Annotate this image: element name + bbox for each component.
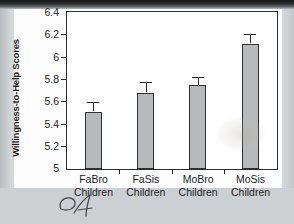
y-axis-title-label: Willingness-to-Help Scores — [10, 23, 21, 173]
y-tick-label: 5.6 — [44, 95, 59, 107]
bar-fasis-children — [137, 93, 154, 169]
x-axis-label-fabro-children: FaBroChildren — [67, 173, 119, 198]
y-tick-mark — [61, 146, 67, 147]
x-axis-label-line: Children — [120, 186, 172, 199]
y-tick-label: 6.4 — [44, 6, 59, 18]
bar-mobro-children — [189, 85, 206, 169]
plot-inner: 55.25.45.65.866.26.4 — [67, 12, 277, 169]
x-axis-label-line: MoBro — [172, 173, 224, 186]
x-axis-label-fasis-children: FaSisChildren — [120, 173, 172, 198]
y-tick-label: 6.2 — [44, 28, 59, 40]
error-bar-stem — [93, 102, 94, 111]
figure-container: Willingness-to-Help Scores 55.25.45.65.8… — [14, 9, 282, 188]
y-tick-mark — [61, 34, 67, 35]
error-bar-cap — [244, 34, 256, 35]
error-bar-cap — [192, 77, 204, 78]
error-bar-stem — [250, 34, 251, 43]
y-tick-mark — [61, 124, 67, 125]
y-tick-label: 5.2 — [44, 140, 59, 152]
y-tick-mark — [61, 101, 67, 102]
x-axis-label-line: FaSis — [120, 173, 172, 186]
x-axis-label-line: Children — [224, 186, 276, 199]
y-tick-mark — [61, 79, 67, 80]
y-tick-label: 5.4 — [44, 118, 59, 130]
x-axis-label-mobro-children: MoBroChildren — [172, 173, 224, 198]
y-tick-label: 5 — [53, 162, 59, 174]
error-bar-stem — [146, 82, 147, 92]
x-axis-label-line: Children — [67, 186, 119, 199]
bar-fabro-children — [85, 112, 102, 169]
error-bar-cap — [140, 82, 152, 83]
x-axis-label-line: Children — [172, 186, 224, 199]
x-axis-label-line: FaBro — [67, 173, 119, 186]
x-axis-label-mosis-children: MoSisChildren — [224, 173, 276, 198]
y-axis-title: Willingness-to-Help Scores — [10, 0, 23, 23]
y-tick-mark — [61, 57, 67, 58]
bar-mosis-children — [242, 44, 259, 169]
x-axis-label-line: MoSis — [224, 173, 276, 186]
error-bar-cap — [87, 102, 99, 103]
plot-area: 55.25.45.65.866.26.4 — [66, 11, 278, 170]
y-tick-label: 5.8 — [44, 73, 59, 85]
error-bar-stem — [198, 77, 199, 85]
y-tick-label: 6 — [53, 51, 59, 63]
